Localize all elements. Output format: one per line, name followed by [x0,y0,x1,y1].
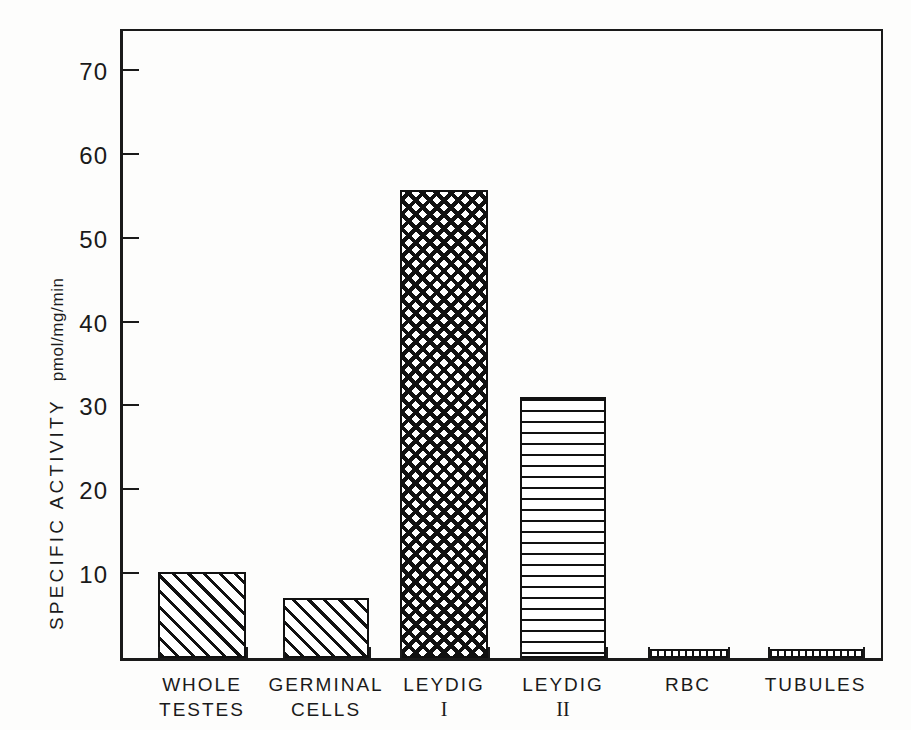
x-axis-tick [488,647,490,658]
x-axis-tick [283,647,285,658]
y-axis-tick [123,488,139,490]
x-axis-tick [400,647,402,658]
x-axis-tick [728,647,730,658]
y-axis-tick [123,572,139,574]
x-axis-category-label-line2: II [473,697,653,722]
y-axis-tick-label: 70 [52,58,108,86]
x-axis-tick [158,647,160,658]
y-axis-tick-label: 10 [52,561,108,589]
x-axis-category-label: TUBULES [726,672,906,697]
bar-rbc[interactable] [648,649,728,658]
x-axis-category-label-line1: TUBULES [726,672,906,697]
bar-leydig-i[interactable] [400,190,488,658]
bar-tubules[interactable] [768,649,863,658]
y-axis-tick-labels: 10203040506070 [46,29,108,661]
y-axis-tick-label: 60 [52,142,108,170]
bar-germinal-cells[interactable] [283,598,369,658]
y-axis-tick-label: 20 [52,477,108,505]
x-axis-tick [648,647,650,658]
y-axis-tick-label: 30 [52,393,108,421]
x-axis-tick [606,647,608,658]
bar-whole-testes[interactable] [158,572,246,658]
bar-leydig-ii[interactable] [520,397,606,658]
bar-chart-figure: SPECIFIC ACTIVITY pmol/mg/min 1020304050… [0,0,911,730]
plot-area [120,29,883,661]
x-axis-tick [520,647,522,658]
y-axis-tick [123,321,139,323]
y-axis-tick [123,153,139,155]
x-axis-tick [369,647,371,658]
x-axis-tick [863,647,865,658]
y-axis-tick [123,404,139,406]
y-axis-tick-label: 50 [52,226,108,254]
x-axis-tick [246,647,248,658]
y-axis-tick [123,237,139,239]
x-axis-tick [768,647,770,658]
y-axis-tick-label: 40 [52,310,108,338]
y-axis-tick [123,69,139,71]
